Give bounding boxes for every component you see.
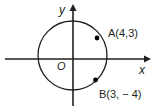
point-label-b: B(3, − 4) [99, 89, 142, 100]
point-marker-b [93, 78, 98, 83]
x-axis-label: x [139, 64, 145, 76]
y-axis-arrow-icon [70, 4, 77, 11]
circle-coordinate-diagram: y x O A(4,3) B(3, − 4) [0, 0, 155, 111]
point-marker-a [95, 36, 100, 41]
x-axis-arrow-icon [144, 56, 151, 63]
y-axis-label: y [59, 4, 65, 16]
origin-label: O [57, 61, 66, 72]
point-label-a: A(4,3) [108, 28, 138, 39]
